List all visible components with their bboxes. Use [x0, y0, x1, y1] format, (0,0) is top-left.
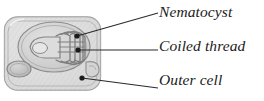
- nematocyst-diagram: Nematocyst Coiled thread Outer cell: [0, 0, 264, 101]
- barb: [86, 62, 99, 77]
- nucleus: [7, 61, 31, 77]
- label-coiled-thread: Coiled thread: [159, 38, 245, 54]
- label-nematocyst: Nematocyst: [159, 4, 232, 20]
- label-outer-cell: Outer cell: [159, 72, 222, 88]
